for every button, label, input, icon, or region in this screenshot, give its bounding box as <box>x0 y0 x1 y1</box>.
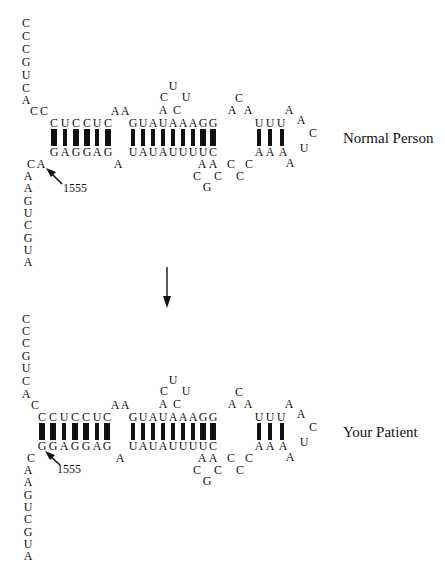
mutation-position-label: 1555 <box>57 463 81 475</box>
mutation-pointer-arrow-icon <box>0 0 445 575</box>
your-patient-label: Your Patient <box>343 424 418 440</box>
patient-structure: C C C G U C A C C C U C C U C A A G U A … <box>0 0 445 290</box>
